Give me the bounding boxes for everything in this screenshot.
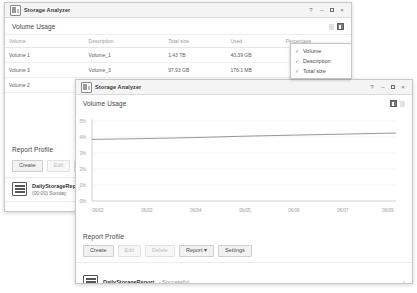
create-button[interactable]: Create (83, 245, 114, 257)
back-window-titlebar[interactable]: Storage Analyzer ? – × (5, 3, 351, 18)
front-report-buttons[interactable]: Create Edit Delete Report ▾ Settings (76, 242, 412, 262)
front-report-title: DailyStorageReport (103, 279, 154, 285)
create-button[interactable]: Create (12, 160, 43, 172)
front-volume-usage-title: Volume Usage (83, 100, 126, 107)
menu-item-total-size[interactable]: ✓ Total size (291, 66, 352, 76)
edit-button[interactable]: Edit (47, 160, 70, 172)
report-icon (83, 275, 98, 284)
menu-item-label: Volume (303, 48, 321, 54)
xtick-label: 06/03 (141, 208, 153, 213)
usage-line-chart-svg: 5% 4% 3% 2% 1% 0% (78, 113, 400, 225)
xtick-label: 06/07 (337, 208, 349, 213)
ytick-label: 0% (79, 199, 86, 204)
cell-used: 40.39 GB (226, 48, 281, 63)
minimize-button[interactable]: – (380, 84, 386, 90)
storage-analyzer-icon (81, 82, 92, 93)
xtick-label: 06/09 (382, 208, 394, 213)
menu-item-description[interactable]: ✓ Description (291, 56, 352, 66)
menu-item-volume[interactable]: ✓ Volume (291, 46, 352, 56)
front-report-profile-panel: Report Profile Create Edit Delete Report… (76, 231, 412, 284)
front-volume-usage-header: Volume Usage (76, 95, 412, 111)
cell-volume: Volume 1 (5, 48, 85, 63)
column-header-total-size[interactable]: Total size (164, 35, 226, 48)
front-report-item[interactable]: DailyStorageReport - Successful (00:00) … (76, 262, 412, 285)
cell-volume: Volume 3 (5, 63, 85, 78)
close-button[interactable]: × (339, 7, 345, 13)
back-window-controls[interactable]: ? – × (308, 7, 348, 13)
report-dropdown-button[interactable]: Report ▾ (179, 245, 214, 257)
ytick-label: 2% (79, 167, 86, 172)
cell-total-size: 97.93 GB (164, 63, 226, 78)
front-header-tools[interactable] (390, 100, 405, 107)
xtick-label: 06/04 (190, 208, 202, 213)
volume-usage-chart: 5% 4% 3% 2% 1% 0% (76, 111, 412, 231)
ytick-label: 4% (79, 135, 86, 140)
edit-button[interactable]: Edit (118, 245, 141, 257)
column-chooser-menu[interactable]: ✓ Volume ✓ Description ✓ Total size (290, 43, 352, 79)
table-toggle-icon[interactable] (337, 23, 344, 30)
front-report-text: DailyStorageReport - Successful (00:00) … (103, 267, 269, 285)
chart-toggle-icon[interactable] (390, 100, 397, 107)
back-header-tools[interactable] (329, 23, 344, 30)
cell-volume: Volume 2 (5, 78, 85, 93)
chart-toggle-icon[interactable] (329, 24, 334, 30)
front-volume-usage-panel: Volume Usage 5% 4% 3% 2% 1% 0% (76, 95, 412, 231)
chevron-right-icon[interactable]: › (403, 279, 405, 284)
minimize-button[interactable]: – (319, 7, 325, 13)
front-report-title-line: DailyStorageReport - Successful (103, 267, 269, 285)
help-button[interactable]: ? (308, 7, 314, 13)
front-report-profile-header: Report Profile (76, 231, 412, 242)
cell-description: Volume_3 (85, 63, 165, 78)
menu-item-label: Description (303, 58, 331, 64)
ytick-label: 5% (79, 119, 86, 124)
front-report-profile-title: Report Profile (83, 233, 124, 240)
ytick-label: 3% (79, 151, 86, 156)
front-window-title: Storage Analyzer (95, 84, 141, 90)
report-icon (12, 182, 27, 196)
column-header-volume[interactable]: Volume (5, 35, 85, 48)
maximize-button[interactable] (391, 85, 395, 89)
help-button[interactable]: ? (369, 84, 375, 90)
front-window-titlebar[interactable]: Storage Analyzer ? – × (76, 80, 412, 95)
column-header-used[interactable]: Used (226, 35, 281, 48)
front-report-status: - Successful (159, 279, 189, 285)
column-header-description[interactable]: Description (85, 35, 165, 48)
front-window-controls[interactable]: ? – × (369, 84, 409, 90)
cell-description: Volume_1 (85, 48, 165, 63)
usage-series-line (92, 133, 396, 139)
delete-button[interactable]: Delete (145, 245, 175, 257)
close-button[interactable]: × (400, 84, 406, 90)
xtick-label: 06/02 (92, 208, 104, 213)
front-window[interactable]: Storage Analyzer ? – × Volume Usage 5% (75, 79, 413, 284)
ytick-label: 1% (79, 183, 86, 188)
maximize-button[interactable] (330, 8, 334, 12)
cell-total-size: 1.43 TB (164, 48, 226, 63)
check-icon: ✓ (295, 69, 300, 74)
back-report-profile-title: Report Profile (12, 146, 53, 153)
screenshot-stage: Storage Analyzer ? – × Volume Usage (0, 0, 417, 293)
back-volume-usage-header: Volume Usage (5, 18, 351, 34)
table-toggle-icon[interactable] (400, 101, 405, 107)
check-icon: ✓ (295, 59, 300, 64)
storage-analyzer-icon (10, 5, 21, 16)
xtick-label: 06/06 (288, 208, 300, 213)
menu-item-label: Total size (303, 68, 326, 74)
check-icon: ✓ (295, 49, 300, 54)
chart-gridlines (92, 121, 396, 185)
xtick-label: 06/05 (239, 208, 251, 213)
cell-used: 176.1 MB (226, 63, 281, 78)
back-volume-usage-title: Volume Usage (12, 23, 55, 30)
settings-button[interactable]: Settings (218, 245, 252, 257)
back-window-title: Storage Analyzer (24, 7, 70, 13)
